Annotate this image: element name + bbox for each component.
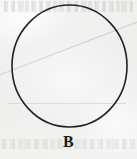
- ghost-text-top-artifact: [4, 1, 133, 12]
- figure-label: B: [0, 133, 137, 151]
- ghost-horizontal-rule-artifact: [8, 103, 126, 104]
- ghost-diagonal-streak-artifact: [0, 21, 137, 79]
- figure-panel: B: [0, 0, 137, 159]
